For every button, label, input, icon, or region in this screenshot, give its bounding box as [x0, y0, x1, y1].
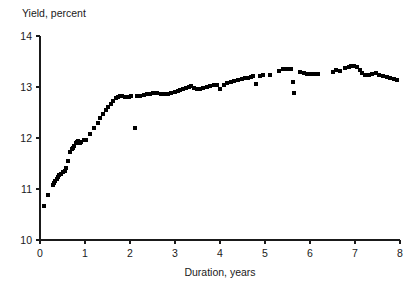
data-point	[215, 83, 219, 87]
y-tick-label: 13	[20, 81, 32, 93]
x-tick-label: 7	[352, 247, 358, 259]
data-point	[92, 126, 96, 130]
data-point	[309, 72, 313, 76]
x-axis-title: Duration, years	[184, 266, 255, 278]
data-point	[138, 94, 142, 98]
y-tick-label: 11	[21, 183, 32, 195]
y-tick-label: 12	[20, 132, 32, 144]
x-axis-ticks: 012345678	[37, 240, 403, 259]
x-tick-label: 6	[307, 247, 313, 259]
data-point	[166, 92, 170, 96]
data-point	[268, 73, 272, 77]
data-point	[370, 72, 374, 76]
data-point	[343, 66, 347, 70]
data-point	[212, 83, 216, 87]
y-axis-title: Yield, percent	[22, 7, 86, 19]
scatter-plot: 1011121314 012345678 Yield, percent Dura…	[0, 0, 419, 290]
data-point	[133, 126, 137, 130]
data-point	[208, 84, 212, 88]
data-point	[151, 91, 155, 95]
data-point	[232, 79, 236, 83]
data-point	[254, 82, 258, 86]
data-point	[101, 112, 105, 116]
data-point	[218, 87, 222, 91]
data-point	[338, 69, 342, 73]
data-point	[159, 92, 163, 96]
data-point	[251, 74, 255, 78]
data-point	[395, 78, 399, 82]
data-point	[66, 159, 70, 163]
data-point	[225, 81, 229, 85]
data-point	[381, 74, 385, 78]
data-point	[229, 80, 233, 84]
x-tick-label: 1	[82, 247, 88, 259]
data-point	[374, 71, 378, 75]
x-tick-label: 3	[172, 247, 178, 259]
data-point	[334, 68, 338, 72]
data-point	[313, 72, 317, 76]
data-point	[240, 77, 244, 81]
data-point	[84, 138, 88, 142]
y-axis-ticks: 1011121314	[20, 30, 40, 246]
data-point	[162, 92, 166, 96]
data-point	[222, 83, 226, 87]
data-point	[261, 73, 265, 77]
data-point	[42, 204, 46, 208]
data-point	[236, 78, 240, 82]
data-point	[155, 91, 159, 95]
data-point	[258, 74, 262, 78]
data-point	[98, 116, 102, 120]
y-tick-label: 10	[20, 234, 32, 246]
data-point	[205, 85, 209, 89]
data-point	[367, 73, 371, 77]
data-point	[331, 70, 335, 74]
data-point	[298, 70, 302, 74]
yield-curve-figure: 1011121314 012345678 Yield, percent Dura…	[0, 0, 419, 290]
data-point	[388, 76, 392, 80]
data-point	[142, 93, 146, 97]
data-point	[46, 193, 50, 197]
data-point	[88, 132, 92, 136]
data-point	[169, 91, 173, 95]
data-point	[305, 72, 309, 76]
data-point	[291, 80, 295, 84]
data-point	[292, 91, 296, 95]
data-point	[385, 75, 389, 79]
x-tick-label: 5	[262, 247, 268, 259]
data-point	[316, 72, 320, 76]
data-point	[363, 73, 367, 77]
data-point	[392, 77, 396, 81]
y-tick-label: 14	[20, 30, 32, 42]
data-point	[277, 69, 281, 73]
data-point	[289, 67, 293, 71]
x-tick-label: 2	[127, 247, 133, 259]
data-point	[96, 121, 100, 125]
data-point	[64, 166, 68, 170]
data-markers	[42, 64, 400, 209]
data-point	[201, 86, 205, 90]
x-tick-label: 4	[217, 247, 223, 259]
data-point	[129, 94, 133, 98]
x-tick-label: 8	[397, 247, 403, 259]
data-point	[302, 71, 306, 75]
x-tick-label: 0	[37, 247, 43, 259]
data-point	[377, 73, 381, 77]
